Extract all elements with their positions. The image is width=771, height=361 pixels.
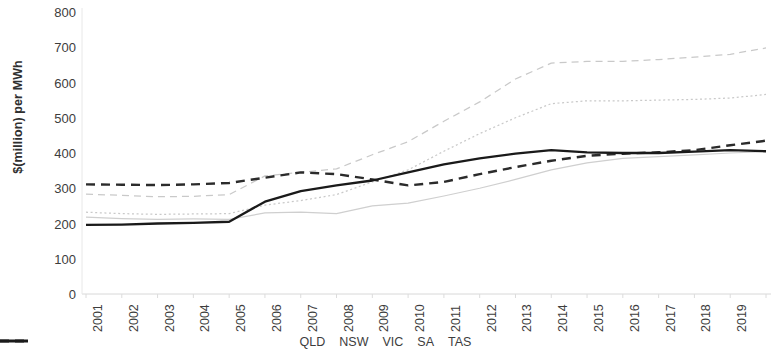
- x-tick-label: 2018: [699, 304, 713, 332]
- legend-label: NSW: [339, 336, 368, 349]
- line-chart: $(million) per MWh 800700600500400300200…: [0, 0, 771, 361]
- x-tick-label: 2015: [592, 304, 606, 332]
- legend-label: QLD: [300, 336, 326, 349]
- x-axis-tick-labels: 2001200220032004200520062007200820092010…: [0, 0, 771, 361]
- legend-label: TAS: [448, 336, 471, 349]
- x-tick-label: 2014: [556, 304, 570, 332]
- x-tick-label: 2006: [270, 304, 284, 332]
- chart-legend: QLDNSWVICSATAS: [0, 336, 771, 349]
- x-tick-label: 2008: [342, 304, 356, 332]
- x-tick-label: 2004: [198, 304, 212, 332]
- legend-item-vic[interactable]: VIC: [382, 336, 403, 349]
- x-tick-label: 2007: [306, 304, 320, 332]
- x-tick-label: 2005: [234, 304, 248, 332]
- x-tick-label: 2019: [735, 304, 749, 332]
- legend-item-nsw[interactable]: NSW: [339, 336, 368, 349]
- x-tick-label: 2003: [163, 304, 177, 332]
- x-tick-label: 2009: [377, 304, 391, 332]
- x-tick-label: 2001: [91, 304, 105, 332]
- x-tick-label: 2011: [449, 305, 463, 332]
- legend-item-tas[interactable]: TAS: [448, 336, 471, 349]
- x-tick-label: 2010: [413, 304, 427, 332]
- x-tick-label: 2013: [520, 304, 534, 332]
- legend-item-qld[interactable]: QLD: [300, 336, 326, 349]
- x-tick-label: 2002: [127, 304, 141, 332]
- x-tick-label: 2016: [628, 304, 642, 332]
- x-tick-label: 2017: [664, 304, 678, 332]
- x-tick-label: 2012: [485, 304, 499, 332]
- legend-swatch-tas: [0, 336, 28, 346]
- legend-label: VIC: [382, 336, 403, 349]
- legend-item-sa[interactable]: SA: [417, 336, 434, 349]
- legend-label: SA: [417, 336, 434, 349]
